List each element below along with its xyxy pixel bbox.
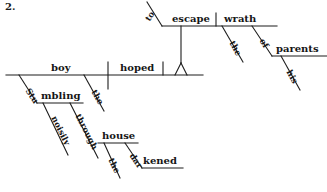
word-infinitive-escape: escape (172, 14, 210, 24)
infinitive-stand-left-leg (175, 63, 181, 75)
word-infinitive-object-wrath: wrath (224, 14, 256, 24)
word-subject-boy: boy (51, 63, 70, 73)
infinitive-stand-right-leg (181, 63, 187, 75)
word-object-house: house (102, 131, 135, 141)
sentence-diagram-page: 2. (0, 0, 327, 192)
word-verb-hoped: hoped (120, 63, 154, 73)
word-object-parents: parents (276, 44, 319, 54)
word-participle-mbling: mbling (41, 91, 80, 101)
word-adjective-kened: kened (143, 156, 177, 166)
